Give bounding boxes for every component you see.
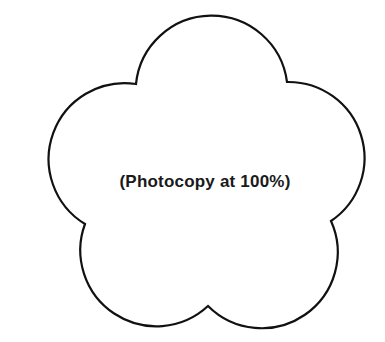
photocopy-caption: (Photocopy at 100%) [0, 172, 385, 192]
flower-outline [0, 0, 385, 342]
